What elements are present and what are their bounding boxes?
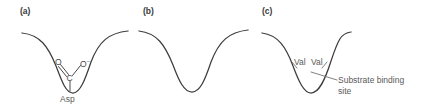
oxygen-right-symbol: O <box>80 59 87 69</box>
residue-label-val-left: Val <box>294 58 306 67</box>
oxygen-right-atom: O– <box>80 58 90 68</box>
residue-label-asp: Asp <box>60 95 75 104</box>
pocket-curve-b <box>139 30 248 92</box>
oxygen-left-atom: O <box>55 58 62 67</box>
panel-c: (c) Val Val Substrate bindingsite <box>259 0 400 111</box>
residue-label-val-right: Val <box>311 58 323 67</box>
figure-root: (a) O C O– Asp (b) (c) <box>0 0 424 111</box>
pocket-curve-a <box>22 31 128 93</box>
annotation-line-2: site <box>338 86 351 96</box>
annotation-line-1: Substrate binding <box>338 75 404 85</box>
panel-a: (a) O C O– Asp <box>0 0 141 111</box>
substrate-binding-site-annotation: Substrate bindingsite <box>338 75 414 96</box>
oxygen-right-charge: – <box>87 58 90 64</box>
carbon-atom: C <box>67 74 73 83</box>
